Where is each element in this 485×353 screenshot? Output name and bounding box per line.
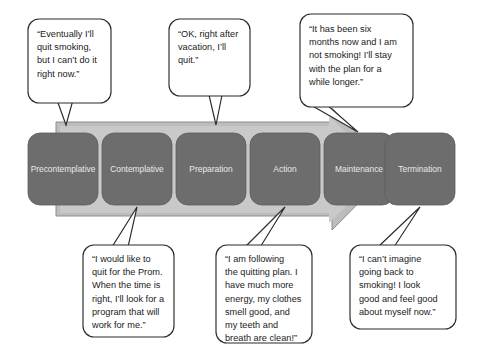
callout-line: my teeth and	[225, 320, 278, 330]
callout-line: When the time is	[92, 280, 161, 290]
stage-label-preparation: Preparation	[189, 164, 233, 174]
callout-line: vacation, I’ll	[178, 42, 226, 52]
stage-box-maintenance[interactable]: Maintenance	[324, 133, 394, 205]
callout-line: “I am following	[225, 254, 284, 264]
callout-tail	[378, 207, 420, 247]
stage-box-action[interactable]: Action	[250, 133, 320, 205]
stage-box-preparation[interactable]: Preparation	[176, 133, 246, 205]
callout-line: “It has been six	[309, 24, 372, 34]
callout-line: “Eventually I’ll	[37, 29, 94, 39]
stage-box-termination[interactable]: Termination	[385, 133, 455, 205]
callout-line: quit for the Prom.	[92, 267, 162, 277]
callout-precontemplative[interactable]: “Eventually I’ll quit smoking, but I can…	[28, 19, 111, 125]
callout-line: right, I’ll look for a	[92, 294, 165, 304]
stage-box-precontemplative[interactable]: Precontemplative	[28, 133, 98, 205]
callout-termination[interactable]: “I can’t imagine going back to smoking! …	[350, 207, 456, 329]
callout-line: while longer.”	[308, 77, 363, 87]
callout-line: smell good, and	[225, 307, 290, 317]
callout-line: work for me.”	[91, 320, 146, 330]
stage-label-maintenance: Maintenance	[335, 164, 383, 174]
stage-label-action: Action	[273, 164, 297, 174]
callout-line: going back to	[359, 267, 414, 277]
stage-label-termination: Termination	[398, 164, 442, 174]
callout-line: but I can’t do it	[37, 55, 97, 65]
callout-action[interactable]: “I am following the quitting plan. I hav…	[216, 207, 312, 343]
callout-line: have much more	[225, 280, 293, 290]
callout-line: energy, my clothes	[225, 294, 302, 304]
callout-line: months now and I am	[309, 37, 397, 47]
callout-line: right now.”	[37, 69, 79, 79]
callout-line: program that will	[92, 307, 159, 317]
callout-line: about myself now.”	[359, 307, 436, 317]
stages-of-change-diagram: Precontemplative Contemplative Preparati…	[0, 0, 485, 353]
callout-line: “OK, right after	[178, 29, 238, 39]
callout-line: quit.”	[178, 55, 198, 65]
callout-line: the quitting plan. I	[225, 267, 298, 277]
callout-tail	[57, 100, 73, 125]
callout-line: smoking! I look	[359, 280, 421, 290]
callout-tail	[209, 95, 222, 125]
callout-line: with the plan for a	[308, 64, 382, 74]
callout-contemplative[interactable]: “I would like to quit for the Prom. When…	[83, 207, 174, 337]
stage-box-contemplative[interactable]: Contemplative	[102, 133, 172, 205]
callout-maintenance[interactable]: “It has been six months now and I am not…	[300, 14, 413, 132]
stage-label-contemplative: Contemplative	[110, 164, 164, 174]
stage-label-precontemplative: Precontemplative	[31, 164, 96, 174]
callout-line: breath are clean!”	[225, 333, 297, 343]
callout-line: “I can’t imagine	[359, 254, 421, 264]
callout-line: good and feel good	[359, 294, 438, 304]
callout-line: quit smoking,	[37, 42, 91, 52]
callout-line: “I would like to	[92, 254, 151, 264]
callout-preparation[interactable]: “OK, right after vacation, I’ll quit.”	[169, 19, 250, 125]
callout-line: not smoking! I’ll stay	[309, 50, 392, 60]
